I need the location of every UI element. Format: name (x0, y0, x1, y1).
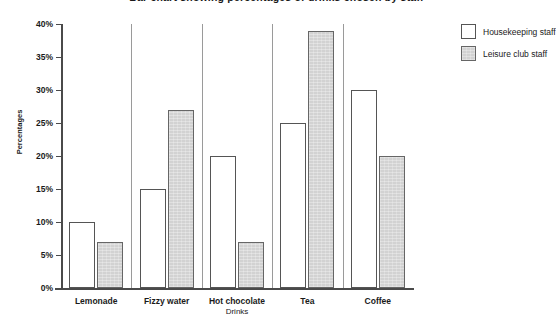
x-tick-label: Coffee (365, 296, 391, 306)
x-axis-line (55, 288, 414, 290)
x-tick-label: Tea (300, 296, 314, 306)
bar-group: Coffee (343, 24, 413, 288)
bar (210, 156, 236, 288)
bar (351, 90, 377, 288)
x-tick-label: Fizzy water (144, 296, 189, 306)
bar (379, 156, 405, 288)
bar (280, 123, 306, 288)
y-tick-label: 40% (36, 19, 53, 29)
y-tick-label: 20% (36, 151, 53, 161)
chart-legend: Housekeeping staffLeisure club staff (461, 24, 556, 61)
x-tick-label: Lemonade (75, 296, 118, 306)
bars-container (61, 24, 131, 288)
y-tick-label: 5% (41, 250, 53, 260)
bar (308, 31, 334, 288)
legend-item: Leisure club staff (461, 46, 556, 61)
bars-container (202, 24, 272, 288)
legend-label: Leisure club staff (483, 49, 547, 59)
y-tick-label: 15% (36, 184, 53, 194)
y-tick-label: 30% (36, 85, 53, 95)
y-axis-title: Percentages (15, 110, 24, 155)
y-tick-label: 0% (41, 283, 53, 293)
y-tick-mark (56, 288, 61, 289)
chart-title: Bar chart showing percentages of drinks … (0, 0, 553, 3)
bar (140, 189, 166, 288)
bar-group: Fizzy water (131, 24, 201, 288)
bar-group: Lemonade (61, 24, 131, 288)
legend-label: Housekeeping staff (483, 27, 556, 37)
y-tick-label: 35% (36, 52, 53, 62)
bar (238, 242, 264, 288)
y-tick-label: 10% (36, 217, 53, 227)
legend-swatch (461, 24, 476, 39)
bars-container (343, 24, 413, 288)
y-tick-label: 25% (36, 118, 53, 128)
bars-container (131, 24, 201, 288)
x-tick-label: Hot chocolate (209, 296, 265, 306)
bar-group: Hot chocolate (202, 24, 272, 288)
x-axis-title: Drinks (226, 307, 249, 316)
legend-item: Housekeeping staff (461, 24, 556, 39)
bar (168, 110, 194, 288)
bars-container (272, 24, 342, 288)
legend-swatch (461, 46, 476, 61)
bar (69, 222, 95, 288)
bar (97, 242, 123, 288)
plot-area: 0%5%10%15%20%25%30%35%40% LemonadeFizzy … (61, 24, 413, 288)
bar-group: Tea (272, 24, 342, 288)
